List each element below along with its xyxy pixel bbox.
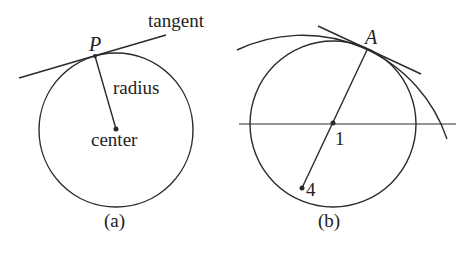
panel-b bbox=[237, 26, 456, 207]
point-p-label: P bbox=[88, 33, 101, 55]
panel-a bbox=[19, 35, 193, 207]
point-1-dot bbox=[331, 121, 336, 126]
point-1-label: 1 bbox=[335, 128, 345, 149]
point-a-label: A bbox=[363, 26, 378, 48]
point-4-label: 4 bbox=[306, 179, 316, 200]
caption-b: (b) bbox=[318, 210, 340, 232]
caption-a: (a) bbox=[104, 210, 125, 232]
diameter-line bbox=[302, 50, 367, 188]
tangent-label: tangent bbox=[148, 10, 205, 31]
point-4-dot bbox=[300, 186, 305, 191]
radius-label: radius bbox=[113, 77, 159, 98]
diagram-canvas: tangent P radius center (a) A 1 4 (b) bbox=[0, 0, 467, 259]
center-label: center bbox=[91, 129, 138, 150]
